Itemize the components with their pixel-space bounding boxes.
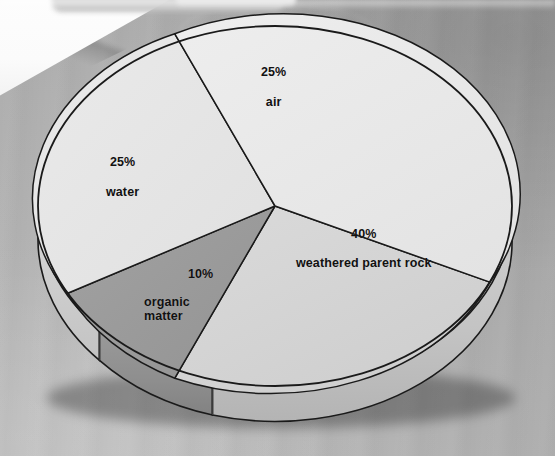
pie-label-air: 25% air bbox=[261, 66, 286, 109]
pie-label-water-percent: 25% bbox=[106, 156, 139, 169]
pie-label-organic-name-line1: organic bbox=[144, 295, 190, 309]
pie-label-air-name: air bbox=[261, 96, 286, 109]
pie-label-air-percent: 25% bbox=[261, 66, 286, 79]
pie-label-organic-name: organic matter bbox=[144, 295, 213, 323]
screenshot-canvas: 25% air 25% water 40% weathered parent r… bbox=[0, 0, 555, 456]
pie-label-water: 25% water bbox=[106, 156, 139, 199]
pie-label-organic-matter: 10% organic matter bbox=[144, 268, 213, 323]
pie-label-organic-percent: 10% bbox=[188, 268, 213, 281]
pie-label-rock-percent: 40% bbox=[296, 228, 431, 241]
pie-label-weathered-parent-rock: 40% weathered parent rock bbox=[296, 228, 431, 270]
pie-label-water-name: water bbox=[106, 186, 139, 199]
pie-label-organic-name-line2: matter bbox=[144, 309, 183, 323]
pie-label-rock-name: weathered parent rock bbox=[296, 257, 431, 270]
